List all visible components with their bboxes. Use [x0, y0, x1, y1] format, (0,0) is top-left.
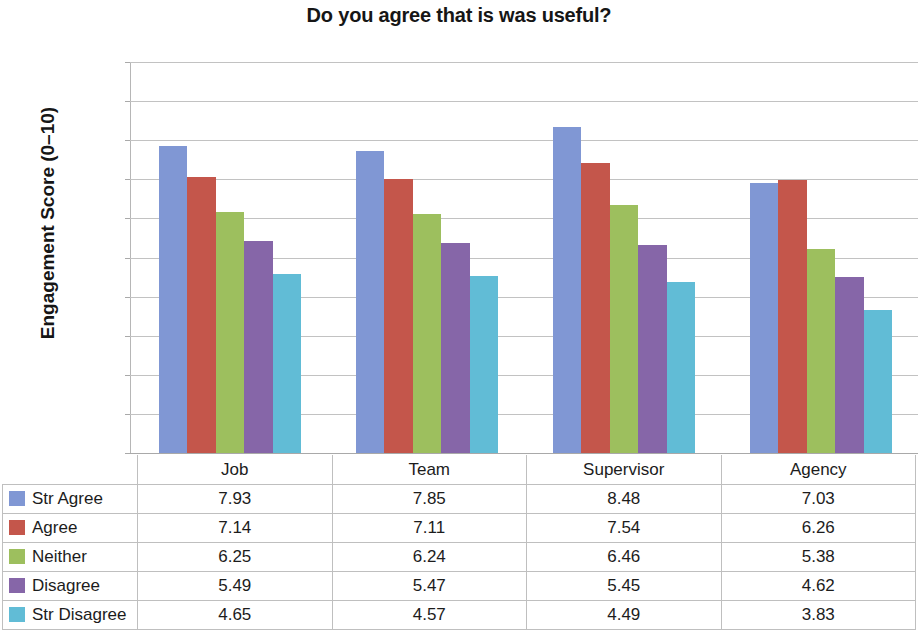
legend-swatch-icon: [9, 607, 25, 622]
bar: [553, 127, 581, 453]
table-value-cell: 4.57: [332, 601, 527, 630]
legend-swatch-icon: [9, 520, 25, 535]
table-column-header: Team: [332, 456, 527, 485]
bar: [159, 146, 187, 453]
y-axis-title: Engagement Score (0–10): [37, 23, 59, 423]
table-value-cell: 7.03: [721, 485, 916, 514]
table-value-cell: 7.11: [332, 514, 527, 543]
table-value-cell: 6.25: [138, 543, 333, 572]
bar: [384, 179, 412, 453]
bar: [581, 163, 609, 453]
gridline: [130, 453, 918, 454]
bar: [470, 276, 498, 453]
table-value-cell: 4.65: [138, 601, 333, 630]
bar: [187, 177, 215, 453]
bar: [667, 282, 695, 453]
legend-cell: Disagree: [3, 572, 138, 601]
table-value-cell: 6.46: [527, 543, 722, 572]
table-column-header: Agency: [721, 456, 916, 485]
axis-tick: [125, 453, 130, 454]
bar: [638, 245, 666, 453]
table-row: Disagree5.495.475.454.62: [3, 572, 916, 601]
bar: [244, 241, 272, 453]
table-value-cell: 5.38: [721, 543, 916, 572]
table-value-cell: 8.48: [527, 485, 722, 514]
chart-title: Do you agree that is was useful?: [0, 4, 918, 27]
table-value-cell: 4.49: [527, 601, 722, 630]
table-column-header: Job: [138, 456, 333, 485]
table-value-cell: 4.62: [721, 572, 916, 601]
legend-cell: Str Disagree: [3, 601, 138, 630]
bar: [807, 249, 835, 453]
bar-group: [130, 62, 327, 453]
table-value-cell: 6.26: [721, 514, 916, 543]
table-value-cell: 3.83: [721, 601, 916, 630]
bar: [356, 151, 384, 453]
legend-label: Neither: [32, 547, 87, 567]
legend-swatch-icon: [9, 578, 25, 593]
bar: [778, 180, 806, 453]
legend-cell: Neither: [3, 543, 138, 572]
table-value-cell: 7.54: [527, 514, 722, 543]
data-table: JobTeamSupervisorAgencyStr Agree7.937.85…: [2, 455, 916, 630]
table-value-cell: 7.85: [332, 485, 527, 514]
table-value-cell: 7.93: [138, 485, 333, 514]
table-column-header: Supervisor: [527, 456, 722, 485]
bar: [216, 212, 244, 453]
legend-label: Disagree: [32, 576, 100, 596]
table-value-cell: 5.49: [138, 572, 333, 601]
bar: [750, 183, 778, 453]
bar: [835, 277, 863, 453]
legend-label: Str Agree: [32, 489, 103, 509]
bar: [610, 205, 638, 453]
table-value-cell: 6.24: [332, 543, 527, 572]
bar-group: [327, 62, 524, 453]
table-value-cell: 7.14: [138, 514, 333, 543]
table-row: Neither6.256.246.465.38: [3, 543, 916, 572]
table-value-cell: 5.47: [332, 572, 527, 601]
table-corner-cell: [3, 456, 138, 485]
plot-area: [130, 62, 918, 453]
legend-swatch-icon: [9, 491, 25, 506]
table-row: Agree7.147.117.546.26: [3, 514, 916, 543]
table-value-cell: 5.45: [527, 572, 722, 601]
table-row: Str Agree7.937.858.487.03: [3, 485, 916, 514]
legend-label: Str Disagree: [32, 605, 126, 625]
bar: [273, 274, 301, 453]
bar: [864, 310, 892, 453]
table-row: Str Disagree4.654.574.493.83: [3, 601, 916, 630]
legend-cell: Agree: [3, 514, 138, 543]
legend-cell: Str Agree: [3, 485, 138, 514]
bar: [413, 214, 441, 453]
table-header-row: JobTeamSupervisorAgency: [3, 456, 916, 485]
bar-group: [524, 62, 721, 453]
legend-swatch-icon: [9, 549, 25, 564]
legend-label: Agree: [32, 518, 77, 538]
bar-group: [721, 62, 918, 453]
bar: [441, 243, 469, 453]
